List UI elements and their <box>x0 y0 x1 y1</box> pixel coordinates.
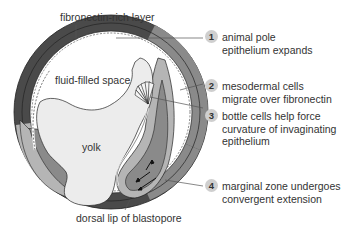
step-badge: 3 <box>205 109 218 122</box>
step-3: 3 bottle cells help force curvature of i… <box>205 110 336 148</box>
step-text: marginal zone undergoes convergent exten… <box>222 180 341 205</box>
step-2: 2 mesodermal cells migrate over fibronec… <box>205 80 332 105</box>
step-badge: 2 <box>205 79 218 92</box>
step-text: bottle cells help force curvature of inv… <box>222 110 336 148</box>
step-1: 1 animal pole epithelium expands <box>205 31 312 56</box>
fibronectin-label: fibronectin-rich layer <box>60 11 155 23</box>
step-text: animal pole epithelium expands <box>222 31 312 56</box>
step-badge: 1 <box>205 30 218 43</box>
step-text: mesodermal cells migrate over fibronecti… <box>222 80 332 105</box>
step-4: 4 marginal zone undergoes convergent ext… <box>205 180 341 205</box>
cavity-label: fluid-filled space <box>55 74 130 86</box>
step-badge: 4 <box>205 179 218 192</box>
yolk-label: yolk <box>82 141 101 153</box>
blastopore-label: dorsal lip of blastopore <box>76 212 182 224</box>
